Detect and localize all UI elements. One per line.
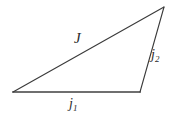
figure-root: J j2 j1: [0, 0, 182, 121]
edge-label-j1: j1: [69, 97, 77, 111]
edge-hypotenuse-J: [13, 7, 164, 92]
edge-label-j2-subscript: 2: [155, 54, 159, 64]
edge-label-J: J: [74, 31, 81, 46]
edge-label-j2: j2: [151, 48, 159, 62]
edge-label-j1-subscript: 1: [73, 103, 77, 113]
edge-label-J-text: J: [74, 30, 81, 46]
